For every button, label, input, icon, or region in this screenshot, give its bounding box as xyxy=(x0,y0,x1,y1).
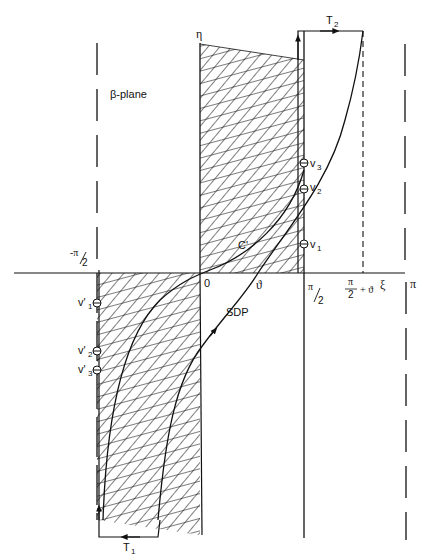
v2-prime-label: v' 2 xyxy=(78,344,93,359)
singularity-v2-marker xyxy=(300,185,308,193)
svg-text:+ ϑ: + ϑ xyxy=(360,284,373,295)
xi-axis-label: ξ xyxy=(380,278,386,292)
svg-text:1: 1 xyxy=(131,547,136,556)
hatched-region-upper xyxy=(195,40,310,280)
v1-label: v 1 xyxy=(310,238,322,253)
sdp-label: SDP xyxy=(226,306,249,318)
svg-text:2: 2 xyxy=(82,257,88,268)
svg-text:2: 2 xyxy=(334,20,339,29)
svg-text:1: 1 xyxy=(317,244,322,253)
singularity-v3-marker xyxy=(300,159,308,167)
lower-region-right-edge xyxy=(200,273,202,535)
svg-text:π: π xyxy=(308,281,313,292)
svg-text:-π: -π xyxy=(70,247,78,258)
svg-text:3: 3 xyxy=(88,369,93,378)
svg-text:3: 3 xyxy=(317,163,322,172)
theta-tick-label: ϑ xyxy=(256,278,262,292)
singularity-v3-prime-marker xyxy=(93,366,101,374)
svg-text:v': v' xyxy=(78,363,86,375)
half-pi-plus-theta-tick-label: π 2 + ϑ xyxy=(345,276,373,300)
t1-label: T 1 xyxy=(123,541,136,556)
svg-text:1: 1 xyxy=(88,302,93,311)
svg-text:T: T xyxy=(123,541,130,553)
svg-text:T: T xyxy=(326,14,333,26)
t2-label: T 2 xyxy=(326,14,339,29)
v3-label: v 3 xyxy=(310,157,322,172)
v3-prime-label: v' 3 xyxy=(78,363,93,378)
path-t2 xyxy=(298,31,363,273)
pi-tick-label: π xyxy=(410,277,416,291)
svg-text:2: 2 xyxy=(318,295,324,306)
beta-plane-diagram: β-plane η ξ π 0 ϑ -π 2 π 2 π 2 + ϑ C' SD… xyxy=(0,0,432,559)
svg-text:v: v xyxy=(310,157,316,169)
svg-text:v': v' xyxy=(78,296,86,308)
neg-half-pi-tick-label: -π 2 xyxy=(70,247,88,268)
svg-text:2: 2 xyxy=(88,350,93,359)
svg-text:v: v xyxy=(310,238,316,250)
sdp-arrow xyxy=(210,330,215,336)
singularity-v1-prime-marker xyxy=(93,299,101,307)
half-pi-tick-label: π 2 xyxy=(308,281,324,306)
hatched-region-lower xyxy=(92,268,207,540)
svg-text:v': v' xyxy=(78,344,86,356)
singularity-v1-marker xyxy=(300,240,308,248)
c-prime-label: C' xyxy=(238,239,248,251)
singularity-v2-prime-marker xyxy=(93,347,101,355)
plane-label: β-plane xyxy=(110,88,147,100)
svg-text:2: 2 xyxy=(317,187,322,196)
origin-label: 0 xyxy=(204,277,210,289)
v1-prime-label: v' 1 xyxy=(78,296,93,311)
eta-axis-label: η xyxy=(196,27,202,41)
svg-text:π: π xyxy=(348,276,353,287)
svg-text:2: 2 xyxy=(348,289,354,300)
svg-text:v: v xyxy=(310,181,316,193)
